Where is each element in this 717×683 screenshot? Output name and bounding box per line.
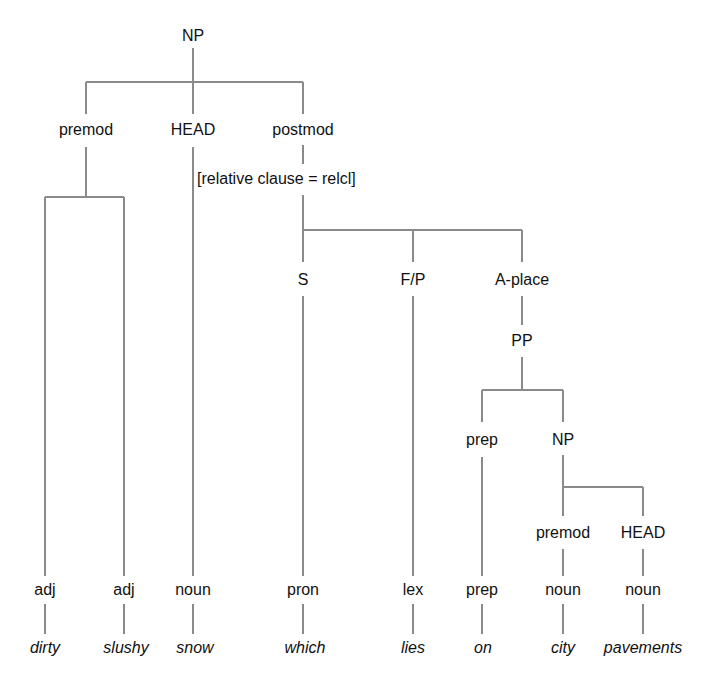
pos-tag: lex bbox=[403, 582, 423, 598]
pos-tag: noun bbox=[625, 582, 661, 598]
finite-predicator-label: F/P bbox=[401, 272, 426, 288]
pos-tag: noun bbox=[175, 582, 211, 598]
pos-tag: prep bbox=[466, 582, 498, 598]
word: snow bbox=[176, 640, 213, 656]
word: pavements bbox=[604, 640, 682, 656]
word: city bbox=[551, 640, 575, 656]
syntax-tree-diagram: NP premod HEAD postmod [relative clause … bbox=[0, 0, 717, 683]
word: which bbox=[285, 640, 326, 656]
word: slushy bbox=[103, 640, 148, 656]
word: on bbox=[474, 640, 492, 656]
word: lies bbox=[401, 640, 425, 656]
premod-label: premod bbox=[59, 122, 113, 138]
relative-clause-annotation: [relative clause = relcl] bbox=[197, 171, 356, 187]
postmod-label: postmod bbox=[272, 122, 333, 138]
inner-np-label: NP bbox=[552, 432, 574, 448]
word: dirty bbox=[30, 640, 60, 656]
head-label: HEAD bbox=[171, 122, 215, 138]
pp-label: PP bbox=[511, 333, 532, 349]
subject-label: S bbox=[298, 272, 309, 288]
adverbial-place-label: A-place bbox=[495, 272, 549, 288]
pos-tag: adj bbox=[113, 582, 134, 598]
pos-tag: pron bbox=[287, 582, 319, 598]
inner-premod-label: premod bbox=[536, 525, 590, 541]
pos-tag: adj bbox=[34, 582, 55, 598]
pp-prep-label: prep bbox=[466, 432, 498, 448]
pos-tag: noun bbox=[545, 582, 581, 598]
root-np-label: NP bbox=[182, 28, 204, 44]
inner-head-label: HEAD bbox=[621, 525, 665, 541]
tree-branches bbox=[0, 0, 717, 683]
